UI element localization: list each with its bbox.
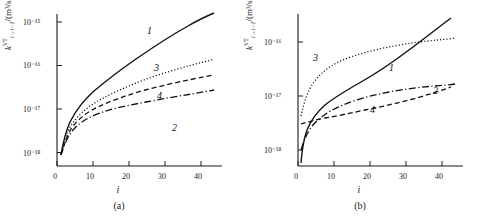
curve-b-1 bbox=[301, 18, 451, 163]
curves-a bbox=[61, 13, 214, 155]
axes-b bbox=[298, 14, 463, 166]
chart-panel-a: kVTi→i−1/(m³/s) 10⁻¹⁵ 10⁻¹⁶ 10⁻¹⁷ 10⁻¹⁸ … bbox=[0, 0, 241, 221]
plot-area-b bbox=[241, 0, 482, 221]
curve-b-3 bbox=[301, 38, 455, 116]
chart-panel-b: kVTi→i−1/(m³/s) 10⁻¹⁶ 10⁻¹⁷ 10⁻¹⁸ 0 10 2… bbox=[241, 0, 482, 221]
curve-a-2 bbox=[61, 90, 214, 155]
curve-b-2 bbox=[301, 84, 455, 150]
curve-a-1 bbox=[61, 13, 214, 155]
plot-area-a bbox=[0, 0, 241, 221]
curve-a-3 bbox=[61, 59, 214, 155]
figure-two-panel-chart: kVTi→i−1/(m³/s) 10⁻¹⁵ 10⁻¹⁶ 10⁻¹⁷ 10⁻¹⁸ … bbox=[0, 0, 482, 221]
curve-a-4 bbox=[61, 75, 214, 155]
curves-b bbox=[301, 18, 455, 163]
axes-a bbox=[57, 14, 222, 166]
